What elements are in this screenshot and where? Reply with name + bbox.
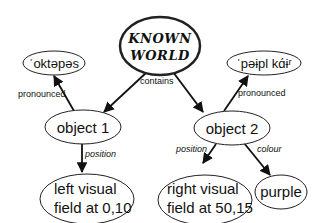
node-pronunciation-2-label: ˈpəɨpl kɑ́ɨʳ <box>236 56 291 71</box>
node-object-1: object 1 <box>45 110 121 144</box>
edge-label-pronounced-1: pronounced <box>18 89 66 99</box>
node-position-1: left visual field at 0,10 <box>40 174 134 223</box>
node-position-2: right visual field at 50,15 <box>158 175 253 223</box>
node-colour: purple <box>255 175 307 209</box>
edge-label-position-1: position <box>84 149 116 159</box>
node-pronunciation-2: ˈpəɨpl kɑ́ɨʳ <box>227 51 301 75</box>
edge-contains-object2 <box>173 72 203 112</box>
edge-label-position-2: position <box>175 144 207 154</box>
node-position-1-line2: field at 0,10 <box>54 199 132 216</box>
node-position-1-line1: left visual <box>54 180 117 197</box>
edge-label-pronounced-2: pronounced <box>238 88 286 98</box>
knowledge-diagram: contains pronounced pronounced position … <box>0 0 321 223</box>
node-pronunciation-1-label: ˈoktəpəs <box>29 56 79 71</box>
edge-label-contains: contains <box>140 76 174 86</box>
node-position-2-line2: field at 50,15 <box>167 199 253 216</box>
node-known-world-line1: KNOWN <box>127 31 192 46</box>
node-object-2-label: object 2 <box>206 120 259 137</box>
edge-label-colour: colour <box>257 144 283 154</box>
node-known-world-line2: WORLD <box>130 48 190 63</box>
node-position-2-line1: right visual <box>167 180 239 197</box>
node-colour-label: purple <box>260 183 302 200</box>
node-pronunciation-1: ˈoktəpəs <box>23 51 85 75</box>
node-known-world: KNOWN WORLD <box>120 17 200 75</box>
node-object-2: object 2 <box>194 111 270 145</box>
node-object-1-label: object 1 <box>57 119 110 136</box>
